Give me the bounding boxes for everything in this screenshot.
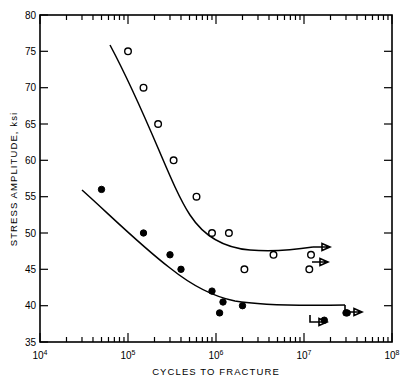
y-tick-label: 65 (25, 119, 37, 130)
data-point-open (193, 193, 200, 200)
x-tick-label: 105 (120, 349, 135, 361)
data-point-filled (216, 310, 222, 316)
data-point-open (241, 266, 248, 273)
data-point-filled (321, 317, 327, 323)
data-point-open (170, 157, 177, 164)
y-tick-label: 60 (25, 155, 37, 166)
data-point-open (308, 252, 315, 259)
data-point-open (306, 266, 313, 273)
y-tick-label: 55 (25, 191, 37, 202)
fatigue-s-n-chart: 35 40 45 50 55 60 65 70 75 80 STRESS AMP… (0, 0, 411, 382)
data-point-open (209, 230, 216, 237)
x-axis-top-ticks (40, 15, 392, 24)
data-point-filled (239, 303, 245, 309)
y-tick-label: 75 (25, 46, 37, 57)
x-axis-title: CYCLES TO FRACTURE (152, 366, 280, 377)
data-point-filled (178, 266, 184, 272)
data-point-open (140, 84, 147, 91)
data-point-filled (167, 252, 173, 258)
x-tick-label: 107 (296, 349, 311, 361)
data-point-open (226, 230, 233, 237)
plot-frame (40, 15, 392, 342)
chart-figure: 35 40 45 50 55 60 65 70 75 80 STRESS AMP… (0, 0, 411, 382)
data-point-filled (220, 299, 226, 305)
x-axis-labels: 104 105 106 107 108 (32, 349, 399, 361)
data-point-filled (344, 310, 350, 316)
data-point-filled (209, 288, 215, 294)
right-axis-ticks (384, 51, 392, 305)
y-axis-ticks (40, 15, 48, 342)
y-axis-labels: 35 40 45 50 55 60 65 70 75 80 (25, 10, 37, 348)
y-tick-label: 70 (25, 82, 37, 93)
runout-arrows (310, 244, 362, 326)
data-point-filled (140, 230, 146, 236)
data-point-filled (98, 186, 104, 192)
data-point-open (125, 48, 132, 55)
y-tick-label: 40 (25, 300, 37, 311)
y-tick-label: 35 (25, 337, 37, 348)
data-markers (98, 48, 350, 323)
y-axis-title: STRESS AMPLITUDE, ksi (8, 112, 19, 246)
x-tick-label: 104 (32, 349, 47, 361)
y-tick-label: 50 (25, 228, 37, 239)
y-tick-label: 80 (25, 10, 37, 21)
x-tick-label: 106 (208, 349, 223, 361)
data-point-open (270, 252, 277, 259)
y-tick-label: 45 (25, 264, 37, 275)
open-series-curve (110, 45, 313, 251)
data-point-open (155, 121, 162, 128)
x-axis-ticks (40, 333, 392, 342)
x-tick-label: 108 (384, 349, 399, 361)
